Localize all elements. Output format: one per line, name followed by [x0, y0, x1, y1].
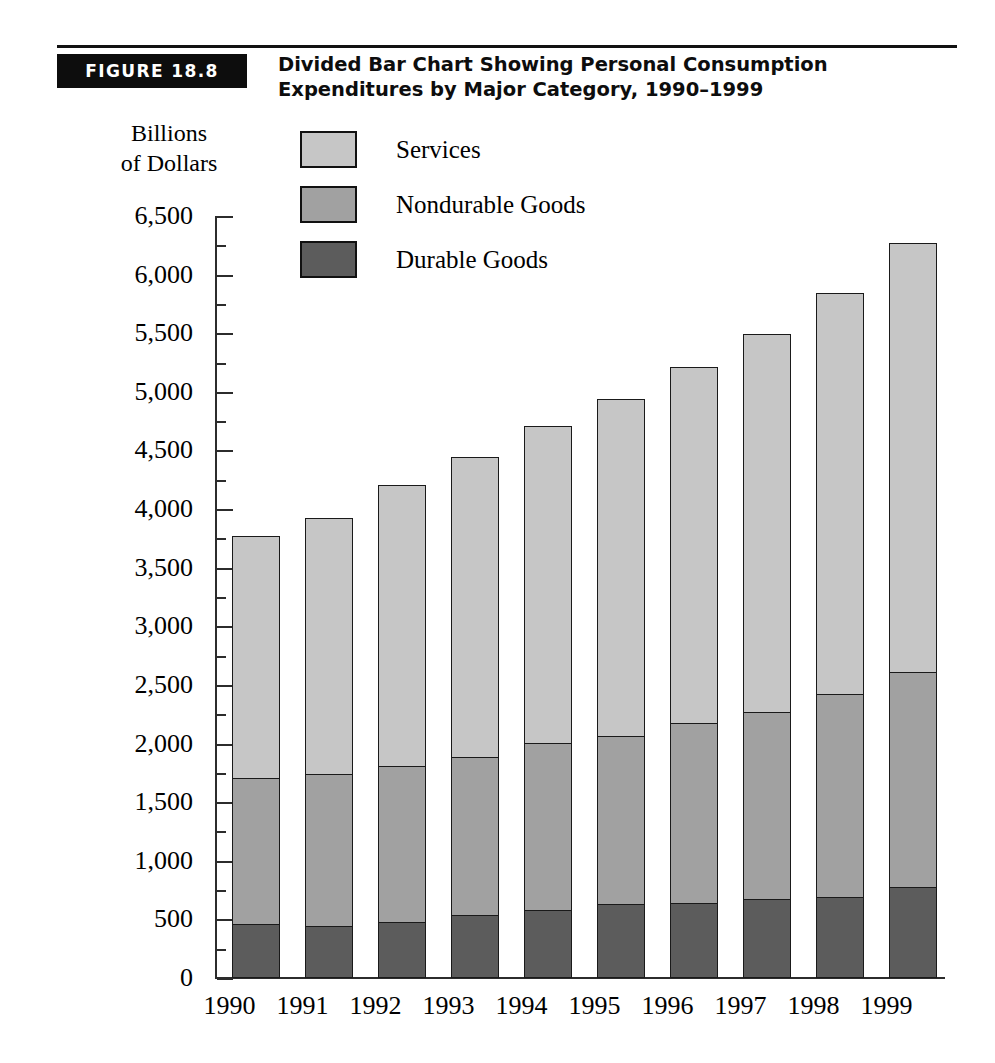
stacked-bar-1997[interactable]: [743, 334, 791, 978]
y-tick-label: 3,000: [135, 611, 194, 641]
header-rule: [57, 45, 957, 48]
stacked-bar-1996[interactable]: [670, 367, 718, 978]
bar-segment-nondurable-1997[interactable]: [743, 712, 791, 900]
y-tick-minor: [217, 304, 226, 306]
y-tick-minor: [217, 656, 226, 658]
bar-segment-durable-1996[interactable]: [670, 903, 718, 978]
bar-segment-durable-1993[interactable]: [451, 915, 499, 978]
y-tick-label: 3,500: [135, 553, 194, 583]
plot-area: 05001,0001,5002,0002,5003,0003,5004,0004…: [215, 216, 945, 978]
bar-segment-services-1994[interactable]: [524, 426, 572, 745]
figure-header: FIGURE 18.8 Divided Bar Chart Showing Pe…: [57, 45, 957, 115]
stacked-bar-1990[interactable]: [232, 536, 280, 978]
legend-label-nondurable-goods: Nondurable Goods: [396, 192, 586, 217]
x-tick-label-1999: 1999: [837, 979, 937, 1021]
stacked-bar-1992[interactable]: [378, 485, 426, 978]
y-tick-label: 5,000: [135, 377, 194, 407]
y-tick-minor: [217, 949, 226, 951]
bar-segment-durable-1997[interactable]: [743, 899, 791, 978]
bar-segment-nondurable-1992[interactable]: [378, 766, 426, 923]
bar-segment-durable-1991[interactable]: [305, 926, 353, 978]
stacked-bar-1991[interactable]: [305, 518, 353, 978]
bar-segment-services-1997[interactable]: [743, 334, 791, 714]
stacked-bar-1995[interactable]: [597, 399, 645, 978]
bar-segment-services-1992[interactable]: [378, 485, 426, 768]
bar-segment-nondurable-1996[interactable]: [670, 723, 718, 904]
y-tick-label: 6,000: [135, 260, 194, 290]
y-tick-minor: [217, 480, 226, 482]
bar-segment-nondurable-1993[interactable]: [451, 757, 499, 917]
y-tick-label: 2,000: [135, 729, 194, 759]
bar-segment-services-1996[interactable]: [670, 367, 718, 725]
bar-segment-nondurable-1994[interactable]: [524, 743, 572, 911]
stacked-bar-1999[interactable]: [889, 243, 937, 978]
y-tick-minor: [217, 421, 226, 423]
stacked-bar-1993[interactable]: [451, 457, 499, 978]
bar-segment-services-1995[interactable]: [597, 399, 645, 738]
y-tick-major: [217, 275, 233, 277]
y-tick-label: 6,500: [135, 201, 194, 231]
legend-item-services: Services: [300, 122, 586, 177]
bar-segment-durable-1995[interactable]: [597, 904, 645, 978]
stacked-bar-1994[interactable]: [524, 426, 572, 978]
bar-segment-durable-1994[interactable]: [524, 910, 572, 978]
bar-segment-services-1990[interactable]: [232, 536, 280, 780]
y-tick-label: 1,500: [135, 787, 194, 817]
y-tick-label: 2,500: [135, 670, 194, 700]
y-tick-major: [217, 392, 233, 394]
y-tick-minor: [217, 538, 226, 540]
figure-title: Divided Bar Chart Showing Personal Consu…: [278, 52, 918, 102]
bar-segment-nondurable-1999[interactable]: [889, 672, 937, 888]
bar-segment-nondurable-1998[interactable]: [816, 694, 864, 899]
bar-segment-services-1991[interactable]: [305, 518, 353, 776]
bar-segment-durable-1992[interactable]: [378, 922, 426, 978]
stacked-bar-1998[interactable]: [816, 293, 864, 978]
bar-segment-durable-1999[interactable]: [889, 887, 937, 978]
y-tick-minor: [217, 597, 226, 599]
y-tick-major: [217, 509, 233, 511]
legend-label-services: Services: [396, 137, 481, 162]
bar-segment-nondurable-1990[interactable]: [232, 778, 280, 926]
y-tick-major: [217, 216, 233, 218]
y-tick-minor: [217, 245, 226, 247]
bar-segment-nondurable-1995[interactable]: [597, 736, 645, 906]
y-tick-minor: [217, 714, 226, 716]
y-tick-major: [217, 450, 233, 452]
y-axis-title: Billions of Dollars: [104, 118, 234, 178]
y-tick-minor: [217, 831, 226, 833]
y-tick-minor: [217, 890, 226, 892]
y-tick-minor: [217, 363, 226, 365]
bar-segment-durable-1998[interactable]: [816, 897, 864, 978]
bar-segment-services-1998[interactable]: [816, 293, 864, 695]
y-tick-label: 4,000: [135, 494, 194, 524]
bar-segment-durable-1990[interactable]: [232, 924, 280, 978]
y-tick-major: [217, 333, 233, 335]
y-tick-label: 4,500: [135, 435, 194, 465]
y-tick-minor: [217, 773, 226, 775]
figure-number-badge: FIGURE 18.8: [57, 54, 247, 88]
bar-segment-services-1993[interactable]: [451, 457, 499, 758]
bar-segment-nondurable-1991[interactable]: [305, 774, 353, 928]
bar-segment-services-1999[interactable]: [889, 243, 937, 674]
y-tick-label: 500: [154, 904, 193, 934]
y-tick-label: 1,000: [135, 846, 194, 876]
services-swatch-icon: [300, 131, 357, 168]
y-tick-label: 5,500: [135, 318, 194, 348]
